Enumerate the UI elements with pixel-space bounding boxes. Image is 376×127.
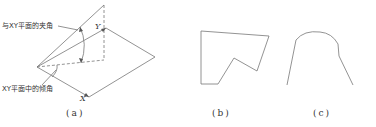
axis-x-label: X xyxy=(80,94,86,103)
caption-b: (b) xyxy=(212,108,231,118)
figure-a: 与XY平面的夹角 XY平面中的倾角 Y X (a) xyxy=(0,0,170,127)
figure-c: (c) xyxy=(280,0,376,127)
caption-a: (a) xyxy=(66,108,84,118)
label-angle-in-plane: XY平面中的倾角 xyxy=(2,83,53,93)
axis-y-label: Y xyxy=(95,22,100,31)
figure-b: (b) xyxy=(170,0,280,127)
caption-c: (c) xyxy=(313,108,331,118)
label-angle-with-plane: 与XY平面的夹角 xyxy=(2,20,53,30)
